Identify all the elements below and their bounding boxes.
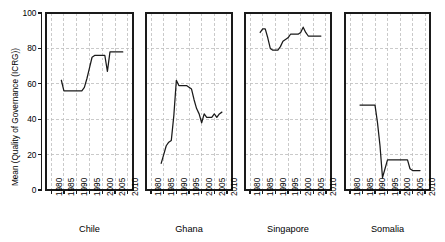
x-tick-label: 2005 bbox=[416, 178, 425, 196]
x-tick-label: 1985 bbox=[67, 178, 76, 196]
x-tick-label: 2010 bbox=[329, 178, 338, 196]
y-tick-label: 100 bbox=[15, 8, 37, 18]
x-tick-label: 1980 bbox=[253, 178, 262, 196]
x-tick-label: 1985 bbox=[167, 178, 176, 196]
x-tick-label: 2010 bbox=[131, 178, 140, 196]
x-tick-label: 2005 bbox=[218, 178, 227, 196]
x-tick-label: 2000 bbox=[106, 178, 115, 196]
y-tick-label: 40 bbox=[15, 114, 37, 124]
series-line-singapore bbox=[260, 27, 321, 50]
series-line-ghana bbox=[161, 80, 222, 163]
x-tick-label: 1990 bbox=[279, 178, 288, 196]
small-multiples-chart: Mean (Quality of Governance (ICRG))02040… bbox=[0, 0, 445, 242]
x-tick-label: 1980 bbox=[154, 178, 163, 196]
x-tick-label: 2010 bbox=[428, 178, 437, 196]
x-tick-label: 1990 bbox=[80, 178, 89, 196]
x-tick-label: 1985 bbox=[366, 178, 375, 196]
series-line-chile bbox=[61, 52, 122, 91]
y-tick-label: 0 bbox=[15, 185, 37, 195]
x-tick-label: 1995 bbox=[93, 178, 102, 196]
x-tick-label: 1985 bbox=[266, 178, 275, 196]
x-tick-label: 2000 bbox=[304, 178, 313, 196]
x-tick-label: 1995 bbox=[291, 178, 300, 196]
x-tick-label: 1980 bbox=[55, 178, 64, 196]
panel-label-somalia: Somalia bbox=[325, 224, 445, 234]
y-tick-label: 60 bbox=[15, 79, 37, 89]
x-tick-label: 2000 bbox=[403, 178, 412, 196]
x-tick-label: 2005 bbox=[118, 178, 127, 196]
x-tick-label: 2005 bbox=[317, 178, 326, 196]
y-tick-label: 20 bbox=[15, 150, 37, 160]
x-tick-label: 2000 bbox=[205, 178, 214, 196]
y-tick-label: 80 bbox=[15, 43, 37, 53]
x-tick-label: 1990 bbox=[378, 178, 387, 196]
x-tick-label: 1995 bbox=[192, 178, 201, 196]
x-tick-label: 1995 bbox=[391, 178, 400, 196]
x-tick-label: 1980 bbox=[353, 178, 362, 196]
x-tick-label: 2010 bbox=[230, 178, 239, 196]
chart-axes-layer bbox=[0, 0, 445, 242]
series-line-somalia bbox=[360, 105, 420, 178]
x-tick-label: 1990 bbox=[180, 178, 189, 196]
